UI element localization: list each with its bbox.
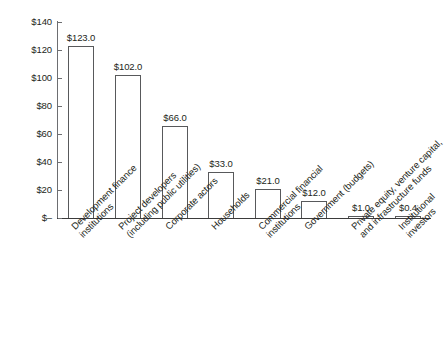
- y-axis-tick: [58, 134, 62, 135]
- y-axis-tick: [58, 162, 62, 163]
- y-axis-tick-label: $60: [4, 129, 52, 139]
- y-axis-tick-label: $80: [4, 101, 52, 111]
- bar-value-label: $102.0: [103, 62, 153, 72]
- y-axis-tick-label: $20: [4, 185, 52, 195]
- y-axis-tick-label-text: $–: [8, 213, 52, 223]
- y-axis-tick-label: $140: [4, 17, 52, 27]
- bar-value-label: $123.0: [56, 33, 106, 43]
- y-axis-tick-label-text: $40: [8, 157, 52, 167]
- bar-value-label: $33.0: [196, 159, 246, 169]
- y-axis-tick-label: $100: [4, 73, 52, 83]
- y-axis-tick-label: $40: [4, 157, 52, 167]
- y-axis-tick-label: $120: [4, 45, 52, 55]
- y-axis-tick: [58, 218, 62, 219]
- y-axis-tick-label-text: $80: [8, 101, 52, 111]
- y-axis-tick-label: $–: [4, 213, 52, 223]
- bar-value-label: $66.0: [150, 113, 200, 123]
- y-axis-tick: [58, 78, 62, 79]
- y-axis-tick-label-text: $20: [8, 185, 52, 195]
- bar-value-label: $21.0: [243, 176, 293, 186]
- bar: [68, 46, 94, 218]
- y-axis-tick: [58, 22, 62, 23]
- y-axis-tick-label-text: $140: [8, 17, 52, 27]
- y-axis-tick: [58, 50, 62, 51]
- y-axis-tick: [58, 106, 62, 107]
- y-axis-tick-label-text: $100: [8, 73, 52, 83]
- y-axis-tick-label-text: $60: [8, 129, 52, 139]
- y-axis-tick-label-text: $120: [8, 45, 52, 55]
- y-axis-tick: [58, 190, 62, 191]
